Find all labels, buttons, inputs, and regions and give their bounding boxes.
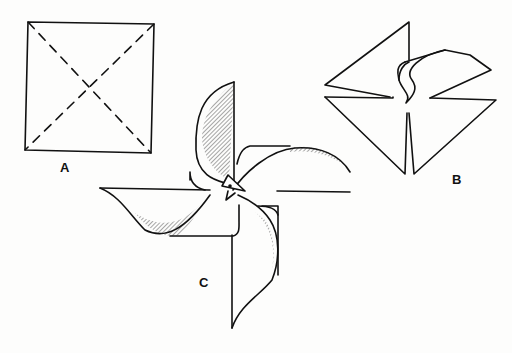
panel-b-cut-sheet — [325, 22, 496, 174]
pinwheel-diagram: A B C — [0, 0, 512, 353]
label-a: A — [60, 160, 69, 175]
panel-a-square — [25, 22, 154, 153]
diagram-drawing — [0, 0, 512, 353]
panel-c-pinwheel — [100, 82, 350, 328]
label-b: B — [452, 172, 461, 187]
label-c: C — [199, 275, 208, 290]
